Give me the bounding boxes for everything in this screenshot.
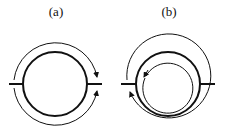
inner-loop-arc [143,63,193,113]
panel-a [9,43,102,125]
thick-loop [23,52,87,116]
panel-b [121,34,215,118]
thick-loop [136,52,200,116]
diagram-canvas [0,0,226,137]
